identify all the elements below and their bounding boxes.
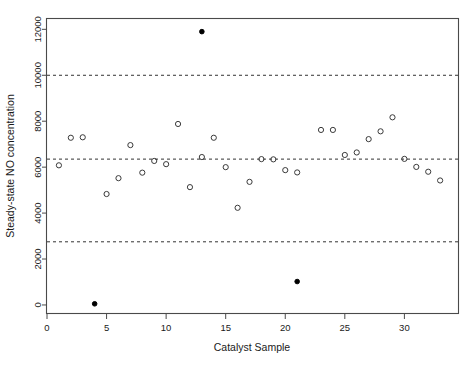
data-point-in-control bbox=[390, 115, 395, 120]
y-tick-label: 6000 bbox=[32, 157, 43, 178]
data-point-in-control bbox=[223, 165, 228, 170]
x-tick-label: 15 bbox=[220, 322, 231, 333]
y-axis-title: Steady-state NO concentration bbox=[4, 94, 16, 238]
plot-frame bbox=[47, 19, 459, 314]
data-point-in-control bbox=[104, 191, 109, 196]
data-point-in-control bbox=[175, 121, 180, 126]
data-point-in-control bbox=[211, 135, 216, 140]
data-point-in-control bbox=[80, 135, 85, 140]
x-tick-label: 20 bbox=[280, 322, 291, 333]
x-axis-ticks-group: 051015202530 bbox=[44, 314, 409, 333]
data-point-in-control bbox=[378, 129, 383, 134]
data-points-group bbox=[56, 29, 442, 306]
data-point-in-control bbox=[187, 185, 192, 190]
y-tick-label: 12000 bbox=[32, 16, 43, 42]
data-point-in-control bbox=[152, 158, 157, 163]
y-tick-label: 2000 bbox=[32, 248, 43, 269]
y-axis-ticks-group: 020004000600080001000012000 bbox=[32, 16, 47, 307]
y-tick-label: 10000 bbox=[32, 62, 43, 88]
x-tick-label: 25 bbox=[340, 322, 351, 333]
data-point-in-control bbox=[199, 154, 204, 159]
data-point-in-control bbox=[247, 179, 252, 184]
data-point-in-control bbox=[56, 163, 61, 168]
x-tick-label: 30 bbox=[399, 322, 410, 333]
x-tick-label: 10 bbox=[161, 322, 172, 333]
data-point-in-control bbox=[426, 169, 431, 174]
data-point-in-control bbox=[295, 170, 300, 175]
data-point-in-control bbox=[414, 164, 419, 169]
data-point-in-control bbox=[438, 178, 443, 183]
plot-frame-rect bbox=[47, 19, 459, 314]
data-point-out-of-control bbox=[92, 302, 97, 307]
y-tick-label: 4000 bbox=[32, 203, 43, 224]
data-point-in-control bbox=[283, 168, 288, 173]
data-point-in-control bbox=[140, 170, 145, 175]
data-point-in-control bbox=[116, 176, 121, 181]
data-point-out-of-control bbox=[295, 279, 300, 284]
data-point-in-control bbox=[68, 135, 73, 140]
data-point-in-control bbox=[318, 127, 323, 132]
data-point-in-control bbox=[235, 205, 240, 210]
y-tick-label: 8000 bbox=[32, 111, 43, 132]
data-point-in-control bbox=[354, 150, 359, 155]
scatter-plot-figure: 020004000600080001000012000 051015202530… bbox=[0, 0, 471, 366]
y-tick-label: 0 bbox=[32, 302, 43, 307]
x-tick-label: 5 bbox=[104, 322, 109, 333]
x-axis-title: Catalyst Sample bbox=[214, 341, 291, 353]
chart-canvas: 020004000600080001000012000 051015202530… bbox=[0, 0, 471, 366]
data-point-in-control bbox=[128, 143, 133, 148]
data-point-in-control bbox=[330, 127, 335, 132]
data-point-in-control bbox=[366, 137, 371, 142]
reference-lines-group bbox=[47, 75, 458, 242]
x-tick-label: 0 bbox=[44, 322, 49, 333]
data-point-in-control bbox=[164, 162, 169, 167]
data-point-in-control bbox=[342, 152, 347, 157]
data-point-out-of-control bbox=[200, 29, 205, 34]
